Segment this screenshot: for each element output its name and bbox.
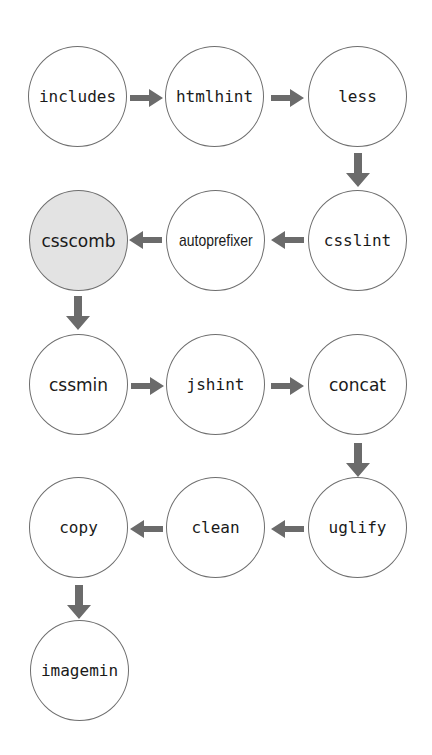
arrow-right-icon xyxy=(271,89,304,107)
arrow-right-icon xyxy=(131,377,164,395)
node-label: includes xyxy=(39,87,116,106)
node-csscomb: csscomb xyxy=(29,190,128,291)
build-pipeline-diagram: includes htmlhint less csslint autoprefi… xyxy=(0,0,432,755)
node-label: less xyxy=(338,87,377,106)
node-csslint: csslint xyxy=(308,190,407,291)
arrow-down-icon xyxy=(66,296,90,330)
node-concat: concat xyxy=(308,334,407,435)
arrow-down-icon xyxy=(67,585,91,619)
node-label: autoprefixer xyxy=(179,231,253,251)
node-label: csscomb xyxy=(41,231,115,251)
node-clean: clean xyxy=(166,477,265,578)
arrow-left-icon xyxy=(271,231,304,249)
node-less: less xyxy=(308,46,407,147)
node-label: cssmin xyxy=(49,375,108,395)
node-label: copy xyxy=(59,518,98,537)
arrow-left-icon xyxy=(271,520,304,538)
node-cssmin: cssmin xyxy=(29,334,128,435)
node-autoprefixer: autoprefixer xyxy=(166,190,265,291)
arrow-down-icon xyxy=(346,153,370,187)
node-includes: includes xyxy=(28,46,127,147)
arrow-down-icon xyxy=(346,443,370,477)
node-label: concat xyxy=(329,375,386,395)
node-jshint: jshint xyxy=(166,334,265,435)
node-label: jshint xyxy=(187,375,245,394)
arrow-right-icon xyxy=(271,377,304,395)
arrow-left-icon xyxy=(129,231,162,249)
node-label: imagemin xyxy=(41,661,118,680)
arrow-right-icon xyxy=(130,89,163,107)
node-copy: copy xyxy=(29,477,128,578)
node-label: csslint xyxy=(324,231,391,250)
node-uglify: uglify xyxy=(308,477,407,578)
arrow-left-icon xyxy=(130,520,163,538)
node-label: uglify xyxy=(329,518,387,537)
node-htmlhint: htmlhint xyxy=(165,46,264,147)
node-label: clean xyxy=(191,518,239,537)
node-imagemin: imagemin xyxy=(30,620,129,721)
node-label: htmlhint xyxy=(176,87,253,106)
